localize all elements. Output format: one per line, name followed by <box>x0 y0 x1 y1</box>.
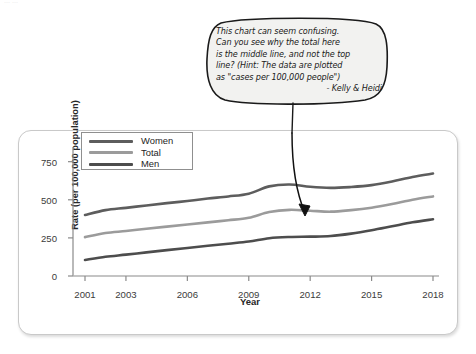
legend-swatch-men <box>89 163 133 166</box>
callout-signature: - Kelly & Heidi <box>216 83 382 94</box>
legend-label-men: Men <box>141 159 159 170</box>
callout-line-5: as "cases per 100,000 people") <box>216 72 382 83</box>
series-line-total <box>85 196 433 237</box>
chart-card: Rate (per 100,000 population) 0250500750… <box>18 130 458 335</box>
y-tick-label-0: 0 <box>52 271 57 282</box>
series-line-women <box>85 174 433 215</box>
callout-line-4: line? (Hint: The data are plotted <box>216 60 382 71</box>
legend-label-women: Women <box>141 136 173 147</box>
y-tick-label-2: 500 <box>41 194 57 205</box>
cut-off-text-sliver: ... ... <box>4 0 124 6</box>
chart-legend: Women Total Men <box>81 132 193 170</box>
legend-label-total: Total <box>141 148 161 159</box>
legend-item-total: Total <box>82 148 192 159</box>
legend-item-men: Men <box>82 159 192 170</box>
y-tick-label-3: 750 <box>41 156 57 167</box>
y-tick-label-1: 250 <box>41 232 57 243</box>
x-axis-title-label: Year <box>240 296 260 307</box>
legend-swatch-women <box>89 140 133 143</box>
callout-line-1: This chart can seem confusing. <box>216 26 382 37</box>
x-axis-title: Year <box>19 296 459 307</box>
screenshot-root: ... ... This chart can seem confusing. C… <box>0 0 476 354</box>
callout-tail <box>292 103 293 133</box>
callout-line-2: Can you see why the total here <box>216 37 382 48</box>
callout-line-3: is the middle line, and not the top <box>216 49 382 60</box>
series-line-men <box>85 219 433 260</box>
callout-bubble: This chart can seem confusing. Can you s… <box>205 17 390 105</box>
legend-swatch-total <box>89 151 133 154</box>
callout-text: This chart can seem confusing. Can you s… <box>216 26 382 94</box>
legend-item-women: Women <box>82 136 192 147</box>
